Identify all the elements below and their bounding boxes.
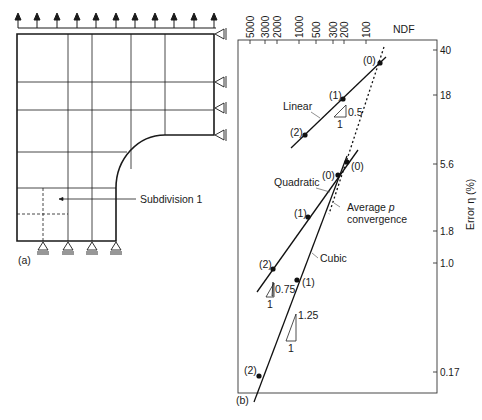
cubic-curve-label: Cubic bbox=[320, 252, 347, 264]
arrow-up-icon bbox=[93, 13, 99, 28]
subdivision-dashed-lines bbox=[17, 188, 68, 241]
cubic-point-1-label: (1) bbox=[302, 276, 315, 288]
x-tick-label: 100 bbox=[361, 21, 372, 38]
linear-curve-label: Linear bbox=[283, 100, 313, 112]
average-convergence-label-line2: convergence bbox=[347, 213, 407, 225]
pin-support-icon bbox=[86, 242, 98, 254]
panel-a-label: (a) bbox=[18, 254, 31, 266]
cubic-slope-triangle bbox=[286, 314, 296, 341]
linear-point-2-label: (2) bbox=[290, 126, 303, 138]
quadratic-curve-label: Quadratic bbox=[274, 176, 320, 188]
y-tick-label: 5.6 bbox=[440, 159, 454, 170]
x-tick-label: 500 bbox=[311, 21, 322, 38]
x-tick-label: 3000 bbox=[260, 15, 271, 38]
y-tick-label: 18 bbox=[440, 90, 452, 101]
quadratic-slope-value: 0.75 bbox=[275, 283, 296, 295]
arrow-up-icon bbox=[54, 13, 60, 28]
linear-slope-run: 1 bbox=[337, 118, 343, 130]
pin-supports-bottom bbox=[37, 242, 122, 254]
x-axis-ticks bbox=[250, 40, 366, 44]
subdivision-label: Subdivision 1 bbox=[140, 193, 203, 205]
traction-arrows bbox=[15, 13, 217, 28]
panel-b-label: (b) bbox=[236, 394, 249, 406]
y-axis-tick-labels: 40 18 5.6 1.8 1.0 0.17 bbox=[440, 45, 460, 378]
roller-supports-right bbox=[215, 28, 226, 141]
arrow-up-icon bbox=[191, 13, 197, 28]
x-axis-title: NDF bbox=[393, 23, 415, 35]
y-tick-label: 0.17 bbox=[440, 367, 460, 378]
subdivision-leader bbox=[59, 198, 136, 201]
y-tick-label: 1.8 bbox=[440, 226, 454, 237]
arrow-up-icon bbox=[74, 13, 80, 28]
x-tick-label: 200 bbox=[339, 21, 350, 38]
linear-point-0 bbox=[377, 60, 382, 65]
quadratic-point-0 bbox=[335, 172, 340, 177]
quadratic-slope-run: 1 bbox=[267, 298, 273, 310]
linear-point-1-label: (1) bbox=[329, 89, 342, 101]
linear-point-0-label: (0) bbox=[363, 54, 376, 66]
cubic-point-2 bbox=[256, 373, 261, 378]
x-axis-tick-labels: 5000 3000 2000 1000 500 300 200 100 bbox=[245, 15, 372, 38]
cubic-point-0 bbox=[344, 159, 349, 164]
y-tick-label: 40 bbox=[440, 45, 452, 56]
arrow-up-icon bbox=[15, 13, 21, 28]
x-tick-label: 2000 bbox=[272, 15, 283, 38]
roller-support-icon bbox=[215, 28, 226, 40]
y-axis-ticks bbox=[433, 50, 437, 372]
cubic-slope-value: 1.25 bbox=[298, 309, 319, 321]
arrow-up-icon bbox=[171, 13, 177, 28]
quadratic-point-1-label: (1) bbox=[294, 207, 307, 219]
quadratic-slope-triangle bbox=[272, 282, 273, 296]
linear-slope-value: 0.5 bbox=[348, 106, 363, 118]
y-tick-label: 1.0 bbox=[440, 258, 454, 269]
roller-support-icon bbox=[215, 129, 226, 141]
arrow-up-icon bbox=[132, 13, 138, 28]
pin-support-icon bbox=[37, 242, 49, 254]
roller-support-icon bbox=[215, 102, 226, 114]
arrow-up-icon bbox=[211, 13, 217, 28]
quadratic-point-0-label: (0) bbox=[322, 169, 335, 181]
linear-point-2 bbox=[302, 132, 307, 137]
cubic-point-0-label: (0) bbox=[351, 160, 364, 172]
x-tick-label: 1000 bbox=[294, 15, 305, 38]
pin-support-icon bbox=[62, 242, 74, 254]
pin-support-icon bbox=[110, 242, 122, 254]
roller-support-icon bbox=[215, 76, 226, 88]
linear-slope-triangle bbox=[334, 105, 346, 117]
x-tick-label: 5000 bbox=[245, 15, 256, 38]
arrow-up-icon bbox=[34, 13, 40, 28]
mesh-boundary bbox=[17, 34, 214, 241]
y-axis-title: Error η (%) bbox=[464, 179, 476, 230]
cubic-curve bbox=[254, 156, 347, 402]
arrow-up-icon bbox=[113, 13, 119, 28]
quadratic-point-2-label: (2) bbox=[259, 258, 272, 270]
cubic-point-1 bbox=[294, 277, 299, 282]
panel-a-mesh bbox=[15, 13, 226, 254]
cubic-point-2-label: (2) bbox=[244, 364, 257, 376]
cubic-slope-run: 1 bbox=[288, 342, 294, 354]
average-convergence-label: Average p bbox=[347, 201, 395, 213]
x-tick-label: 300 bbox=[328, 21, 339, 38]
arrow-up-icon bbox=[152, 13, 158, 28]
average-p-convergence-line bbox=[329, 47, 384, 214]
figure-canvas: Subdivision 1 (a) 5000 3000 2000 1000 50… bbox=[0, 0, 482, 420]
